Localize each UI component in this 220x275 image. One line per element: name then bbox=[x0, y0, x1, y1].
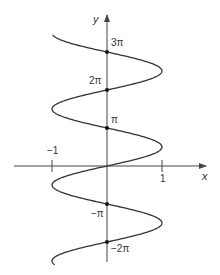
axis-point bbox=[105, 126, 109, 130]
axis-point bbox=[105, 202, 109, 206]
y-tick-label: 2π bbox=[89, 76, 101, 86]
axis-point bbox=[105, 240, 109, 244]
x-tick-label: 1 bbox=[160, 174, 166, 184]
y-tick-label: 3π bbox=[111, 38, 123, 48]
x-tick-label: −1 bbox=[47, 146, 58, 156]
y-axis-label: y bbox=[93, 14, 99, 25]
x-axis-label: x bbox=[202, 171, 208, 182]
axis-point bbox=[105, 88, 109, 92]
y-tick-label: −π bbox=[91, 209, 104, 219]
axis-point bbox=[105, 50, 109, 54]
y-tick-label: π bbox=[111, 115, 118, 125]
y-tick-label: −2π bbox=[111, 244, 129, 254]
sine-plot bbox=[0, 0, 220, 275]
